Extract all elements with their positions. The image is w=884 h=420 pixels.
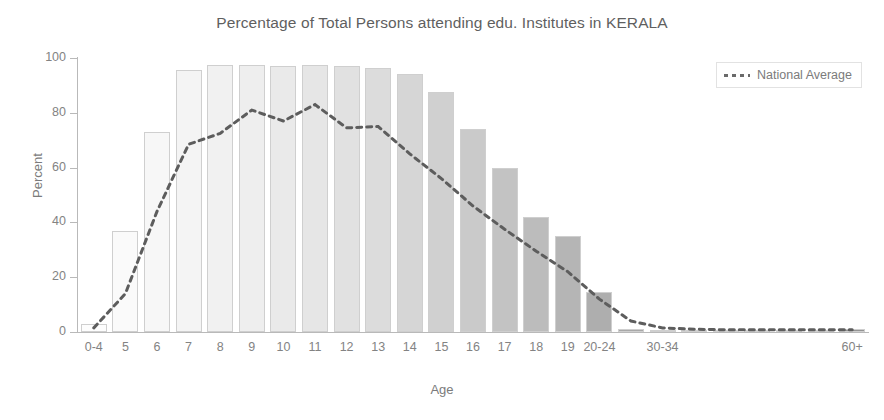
x-axis-tick-label: 13	[371, 340, 385, 354]
y-axis-tick	[70, 332, 77, 333]
dashed-line-icon	[724, 74, 750, 77]
y-axis-tick-label: 80	[32, 105, 66, 119]
y-axis-tick	[70, 277, 77, 278]
y-axis-tick	[70, 168, 77, 169]
x-axis-tick-label: 12	[340, 340, 354, 354]
chart-legend: National Average	[716, 62, 862, 88]
y-axis-tick-label: 60	[32, 160, 66, 174]
x-axis-tick-label: 0-4	[85, 340, 103, 354]
x-axis-tick-label: 14	[403, 340, 417, 354]
y-axis-tick-label: 20	[32, 269, 66, 283]
x-axis-tick-label: 7	[185, 340, 192, 354]
x-axis-tick-label: 9	[248, 340, 255, 354]
plot-area	[78, 58, 868, 332]
x-axis-line	[77, 332, 869, 333]
x-axis-title: Age	[0, 382, 884, 397]
x-axis-tick-label: 60+	[842, 340, 863, 354]
legend-label-national-average: National Average	[757, 68, 852, 82]
y-axis-title: Percent	[30, 131, 45, 221]
national-average-line	[78, 58, 868, 332]
y-axis-tick	[70, 222, 77, 223]
x-axis-tick-label: 15	[434, 340, 448, 354]
y-axis-tick-label: 40	[32, 214, 66, 228]
x-axis-tick-label: 11	[309, 340, 322, 354]
x-axis-tick-label: 5	[122, 340, 129, 354]
y-axis-tick	[70, 113, 77, 114]
x-axis-tick-label: 17	[498, 340, 512, 354]
x-axis-tick-label: 18	[529, 340, 543, 354]
x-axis-tick-label: 16	[466, 340, 480, 354]
x-axis-tick-label: 10	[276, 340, 290, 354]
x-axis-tick-label: 8	[217, 340, 224, 354]
x-axis-tick-label: 30-34	[647, 340, 679, 354]
x-axis-tick-label: 19	[561, 340, 575, 354]
chart-figure: Percentage of Total Persons attending ed…	[0, 0, 884, 420]
y-axis-tick	[70, 58, 77, 59]
y-axis-tick-label: 100	[32, 50, 66, 64]
chart-title: Percentage of Total Persons attending ed…	[0, 14, 884, 32]
x-axis-tick-label: 6	[154, 340, 161, 354]
y-axis-tick-label: 0	[32, 324, 66, 338]
x-axis-tick-label: 20-24	[583, 340, 615, 354]
